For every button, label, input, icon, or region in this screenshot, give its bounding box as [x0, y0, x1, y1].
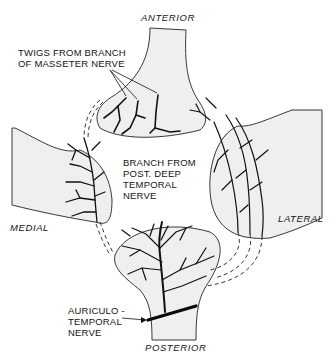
label-auriculotemporal-line3: NERVE [68, 327, 102, 338]
label-deep-temporal-line2: POST. DEEP [123, 168, 181, 179]
medial-lobe [12, 128, 112, 223]
direction-label-anterior: ANTERIOR [141, 12, 195, 23]
label-masseter-line2: OF MASSETER NERVE [18, 58, 125, 69]
label-masseter-line1: TWIGS FROM BRANCH [18, 47, 126, 58]
label-deep-temporal-line4: NERVE [123, 190, 157, 201]
label-auriculotemporal-line1: AURICULO - [68, 305, 125, 316]
direction-label-lateral: LATERAL [278, 213, 324, 224]
label-auriculotemporal-line2: TEMPORAL [68, 316, 122, 327]
direction-label-posterior: POSTERIOR [145, 342, 206, 353]
anterior-lobe [97, 28, 206, 137]
direction-label-medial: MEDIAL [10, 222, 49, 233]
label-deep-temporal-line1: BRANCH FROM [123, 157, 196, 168]
posterior-lobe [115, 227, 221, 340]
label-deep-temporal-line3: TEMPORAL [123, 179, 177, 190]
